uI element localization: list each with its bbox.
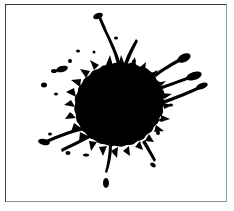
figure-frame — [0, 0, 234, 211]
splatter-canvas — [6, 5, 226, 201]
ink-splatter-graphic — [6, 5, 226, 201]
